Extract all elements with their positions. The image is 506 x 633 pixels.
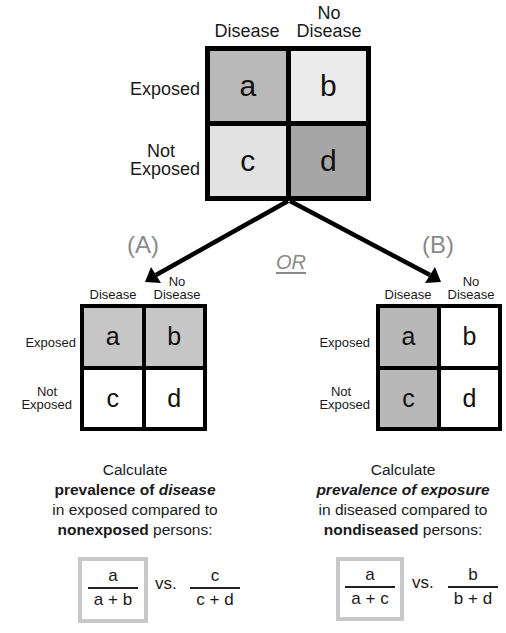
- panel-a-description: Calculate prevalence of disease in expos…: [20, 460, 250, 540]
- panel-b-vs: vs.: [412, 573, 434, 593]
- panel-b-formula-nondiseased: b b + d: [448, 565, 498, 609]
- emphasis-text: prevalence of exposure: [316, 481, 489, 498]
- bold-text: prevalence of: [54, 481, 158, 498]
- header-line: Disease: [146, 288, 208, 301]
- cell-d: d: [441, 370, 498, 428]
- bold-text: nondiseased: [324, 521, 419, 538]
- bold-text: nonexposed: [57, 521, 148, 538]
- emphasis-text: disease: [159, 481, 216, 498]
- description-line: in exposed compared to: [20, 500, 250, 520]
- cell-b: b: [441, 308, 498, 366]
- header-line: Disease: [440, 288, 502, 301]
- header-line: Exposed: [0, 398, 72, 411]
- option-b-label: (B): [422, 231, 454, 259]
- b-col-header-disease: Disease: [377, 288, 439, 301]
- description-line: prevalence of disease: [20, 480, 250, 500]
- cell-b: b: [146, 308, 204, 366]
- numerator: c: [209, 566, 222, 586]
- description-line: Calculate: [20, 460, 250, 480]
- denominator: c + d: [194, 590, 235, 610]
- fraction-bar: [448, 586, 498, 588]
- panel-b-contingency-table: a b c d: [376, 304, 502, 431]
- cell-c: c: [380, 370, 437, 428]
- cell-c: c: [84, 370, 142, 428]
- denominator: a + b: [92, 590, 134, 610]
- a-row-header-not-exposed: Not Exposed: [0, 385, 72, 411]
- denominator: b + d: [452, 589, 494, 609]
- numerator: a: [363, 565, 376, 585]
- panel-a-formula-exposed: a a + b: [88, 566, 138, 610]
- panel-a-contingency-table: a b c d: [80, 304, 207, 431]
- description-line: nonexposed persons:: [20, 520, 250, 540]
- a-row-header-exposed: Exposed: [0, 336, 76, 349]
- description-line: Calculate: [300, 460, 506, 480]
- b-row-header-exposed: Exposed: [290, 336, 370, 349]
- or-label: OR: [276, 251, 306, 274]
- option-a-label: (A): [127, 231, 159, 259]
- b-col-header-no-disease: No Disease: [440, 275, 502, 301]
- cell-a: a: [380, 308, 437, 366]
- numerator: a: [106, 566, 119, 586]
- denominator: a + c: [349, 589, 390, 609]
- a-col-header-disease: Disease: [82, 288, 144, 301]
- arrow-right-icon: [290, 201, 441, 283]
- fraction-bar: [88, 587, 138, 589]
- fraction-bar: [190, 587, 240, 589]
- description-line: in diseased compared to: [300, 500, 506, 520]
- description-line: nondiseased persons:: [300, 520, 506, 540]
- header-line: Exposed: [290, 398, 370, 411]
- description-line: prevalence of exposure: [300, 480, 506, 500]
- panel-a-formula-unexposed: c c + d: [190, 566, 240, 610]
- cell-a: a: [84, 308, 142, 366]
- numerator: b: [466, 565, 479, 585]
- panel-b-formula-diseased: a a + c: [345, 565, 395, 609]
- panel-a-vs: vs.: [155, 574, 177, 594]
- panel-b-description: Calculate prevalence of exposure in dise…: [300, 460, 506, 540]
- b-row-header-not-exposed: Not Exposed: [290, 385, 370, 411]
- fraction-bar: [345, 586, 395, 588]
- a-col-header-no-disease: No Disease: [146, 275, 208, 301]
- cell-d: d: [146, 370, 204, 428]
- arrow-left-icon: [145, 201, 288, 283]
- plain-text: persons:: [418, 521, 482, 538]
- plain-text: persons:: [149, 521, 213, 538]
